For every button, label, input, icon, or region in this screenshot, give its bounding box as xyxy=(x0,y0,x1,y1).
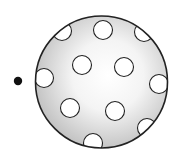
surface-spot xyxy=(94,21,113,40)
surface-spot xyxy=(35,69,54,88)
surface-spot xyxy=(73,56,92,75)
surface-spot xyxy=(150,75,169,94)
surface-spot xyxy=(106,102,125,121)
diagram-canvas xyxy=(0,0,181,161)
surface-spot xyxy=(61,99,80,118)
surface-spot xyxy=(84,134,103,153)
small-dot xyxy=(14,77,22,85)
surface-spot xyxy=(115,58,134,77)
